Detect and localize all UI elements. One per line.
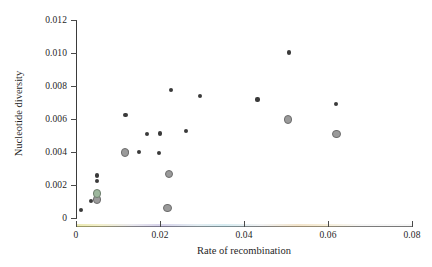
- data-point: [287, 50, 291, 54]
- x-ticklabel-1: 0.02: [138, 229, 182, 241]
- data-point: [284, 115, 292, 123]
- y-ticklabel-3: 0.006: [0, 114, 67, 125]
- x-ticklabel-3: 0.06: [306, 229, 350, 241]
- plot-data-area: [76, 20, 412, 218]
- data-point: [93, 189, 101, 197]
- data-point: [79, 208, 83, 212]
- data-point: [169, 88, 173, 92]
- data-point: [95, 173, 99, 177]
- data-point: [332, 130, 340, 138]
- x-tick-0: [76, 221, 77, 227]
- data-point: [163, 204, 171, 212]
- x-tick-2: [244, 221, 245, 227]
- y-ticklabel-5: 0.010: [0, 48, 67, 59]
- x-tick-3: [328, 221, 329, 227]
- x-ticklabel-0: 0: [54, 229, 98, 241]
- x-ticklabel-2: 0.04: [222, 229, 266, 241]
- scatter-plot-figure: Nucleotide diversity 0 0.002 0.004 0.006…: [0, 0, 432, 267]
- data-point: [121, 148, 129, 156]
- y-ticklabel-4: 0.008: [0, 81, 67, 92]
- data-point: [123, 113, 127, 117]
- y-ticklabel-0: 0: [0, 213, 67, 224]
- data-point: [95, 179, 99, 183]
- data-point: [165, 170, 173, 178]
- data-point: [198, 94, 202, 98]
- x-axis-title: Rate of recombination: [76, 245, 412, 256]
- y-ticklabel-2: 0.004: [0, 147, 67, 158]
- y-ticklabel-6: 0.012: [0, 15, 67, 26]
- data-point: [184, 129, 188, 133]
- x-tick-1: [160, 221, 161, 227]
- data-point: [255, 97, 259, 101]
- data-point: [334, 102, 338, 106]
- y-tick-0: [71, 218, 77, 219]
- x-tick-4: [412, 221, 413, 227]
- x-ticklabel-4: 0.08: [390, 229, 432, 241]
- data-point: [137, 150, 141, 154]
- data-point: [145, 132, 149, 136]
- data-point: [158, 131, 162, 135]
- y-ticklabel-1: 0.002: [0, 180, 67, 191]
- data-point: [157, 151, 161, 155]
